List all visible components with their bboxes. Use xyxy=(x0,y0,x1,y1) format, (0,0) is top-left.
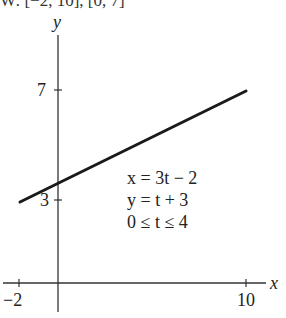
x-tick-label-10: 10 xyxy=(237,290,255,310)
chart-plot: y x 7 3 −2 10 xyxy=(0,0,286,318)
equation-t-range: 0 ≤ t ≤ 4 xyxy=(127,211,197,233)
equation-y: y = t + 3 xyxy=(127,189,197,211)
x-tick-label-neg2: −2 xyxy=(3,290,22,310)
equation-x: x = 3t − 2 xyxy=(127,167,197,189)
x-axis-label: x xyxy=(269,273,278,293)
parametric-equations: x = 3t − 2 y = t + 3 0 ≤ t ≤ 4 xyxy=(127,167,197,233)
y-tick-label-3: 3 xyxy=(40,190,49,210)
y-tick-label-7: 7 xyxy=(37,80,46,100)
y-axis-label: y xyxy=(51,12,61,32)
